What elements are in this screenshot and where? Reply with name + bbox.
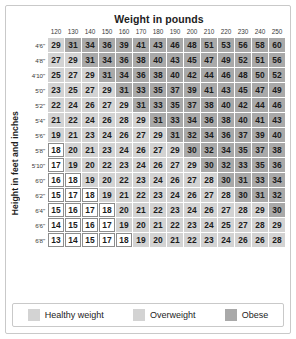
bmi-cell: 24 (184, 203, 200, 217)
bmi-cell: 23 (201, 233, 217, 247)
bmi-cell: 37 (235, 128, 251, 142)
bmi-cell: 49 (269, 83, 285, 97)
bmi-cell: 40 (150, 53, 166, 67)
bmi-cell: 18 (65, 173, 81, 187)
bmi-cell: 20 (133, 218, 149, 232)
legend-label-overweight: Overweight (150, 310, 196, 320)
weight-column-header: 200 (184, 28, 200, 37)
bmi-cell: 37 (252, 143, 268, 157)
bmi-cell: 21 (167, 233, 183, 247)
bmi-cell: 29 (82, 68, 98, 82)
bmi-cell: 31 (167, 128, 183, 142)
bmi-cell: 30 (218, 173, 234, 187)
table-row: 5'2"2224262729313335373840424446 (25, 98, 285, 112)
bmi-cell: 28 (201, 173, 217, 187)
bmi-cell: 19 (116, 218, 132, 232)
bmi-cell: 20 (65, 143, 81, 157)
bmi-cell: 47 (201, 53, 217, 67)
bmi-cell: 33 (133, 83, 149, 97)
height-row-header: 5'0" (25, 83, 47, 97)
legend-swatch-healthy-icon (28, 309, 40, 321)
bmi-cell: 29 (269, 218, 285, 232)
bmi-cell: 22 (65, 113, 81, 127)
bmi-cell: 36 (218, 128, 234, 142)
bmi-cell: 27 (133, 128, 149, 142)
bmi-cell: 22 (99, 158, 115, 172)
height-row-header: 6'4" (25, 203, 47, 217)
bmi-cell: 30 (269, 203, 285, 217)
table-row: 6'8"1314151718192021222324262628 (25, 233, 285, 247)
bmi-cell: 43 (167, 53, 183, 67)
bmi-cell: 32 (184, 128, 200, 142)
weight-column-header: 210 (201, 28, 217, 37)
bmi-cell: 23 (184, 218, 200, 232)
bmi-cell: 17 (65, 188, 81, 202)
bmi-cell: 31 (116, 83, 132, 97)
bmi-cell: 38 (133, 53, 149, 67)
bmi-cell: 46 (167, 38, 183, 52)
bmi-cell: 29 (167, 143, 183, 157)
bmi-cell: 15 (82, 233, 98, 247)
bmi-cell: 26 (133, 143, 149, 157)
bmi-cell: 38 (150, 68, 166, 82)
bmi-cell: 27 (235, 218, 251, 232)
table-row: 6'4"1516171820212223242627282930 (25, 203, 285, 217)
bmi-cell: 28 (235, 203, 251, 217)
bmi-cell: 39 (116, 38, 132, 52)
height-row-header: 5'2" (25, 98, 47, 112)
height-row-header: 4'8" (25, 53, 47, 67)
bmi-cell: 24 (82, 113, 98, 127)
bmi-cell: 30 (184, 143, 200, 157)
bmi-cell: 34 (99, 53, 115, 67)
bmi-table: 1201301401501601701801902002102202302402… (24, 27, 286, 248)
bmi-cell: 43 (269, 113, 285, 127)
bmi-cell: 24 (133, 158, 149, 172)
bmi-cell: 23 (82, 128, 98, 142)
bmi-cell: 28 (218, 188, 234, 202)
bmi-cell: 24 (167, 188, 183, 202)
bmi-cell: 29 (65, 53, 81, 67)
bmi-cell: 18 (116, 233, 132, 247)
bmi-cell: 60 (269, 38, 285, 52)
bmi-cell: 25 (48, 68, 64, 82)
bmi-cell: 17 (99, 233, 115, 247)
bmi-cell: 46 (269, 98, 285, 112)
bmi-cell: 24 (201, 218, 217, 232)
bmi-cell: 23 (48, 83, 64, 97)
bmi-cell: 26 (235, 233, 251, 247)
weight-column-header: 250 (269, 28, 285, 37)
bmi-cell: 23 (133, 173, 149, 187)
bmi-cell: 29 (252, 203, 268, 217)
bmi-cell: 15 (48, 188, 64, 202)
weight-column-header: 180 (150, 28, 166, 37)
bmi-cell: 43 (150, 38, 166, 52)
bmi-cell: 23 (99, 143, 115, 157)
bmi-cell: 33 (252, 173, 268, 187)
table-row: 5'6"1921232426272931323436373940 (25, 128, 285, 142)
legend-item-overweight: Overweight (133, 309, 196, 321)
bmi-cell: 46 (218, 68, 234, 82)
height-row-header: 5'6" (25, 128, 47, 142)
bmi-cell: 36 (99, 38, 115, 52)
height-row-header: 6'8" (25, 233, 47, 247)
bmi-cell: 16 (48, 173, 64, 187)
bmi-cell: 39 (184, 83, 200, 97)
bmi-table-body: 4'6"29313436394143464851535658604'8"2729… (25, 38, 285, 247)
bmi-cell: 56 (235, 38, 251, 52)
bmi-cell: 22 (167, 218, 183, 232)
table-row: 6'0"1618192022232426272830313334 (25, 173, 285, 187)
height-row-header: 4'6" (25, 38, 47, 52)
bmi-cell: 22 (133, 188, 149, 202)
bmi-cell: 29 (184, 158, 200, 172)
legend-label-obese: Obese (242, 310, 269, 320)
bmi-cell: 27 (184, 173, 200, 187)
bmi-cell: 41 (133, 38, 149, 52)
height-row-header: 6'0" (25, 173, 47, 187)
table-corner (25, 28, 47, 37)
bmi-cell: 30 (235, 188, 251, 202)
bmi-cell: 43 (218, 83, 234, 97)
height-row-header: 4'10" (25, 68, 47, 82)
y-axis-label-wrap: Height in feet and inches (6, 27, 24, 300)
bmi-cell: 14 (65, 233, 81, 247)
bmi-cell: 26 (201, 203, 217, 217)
